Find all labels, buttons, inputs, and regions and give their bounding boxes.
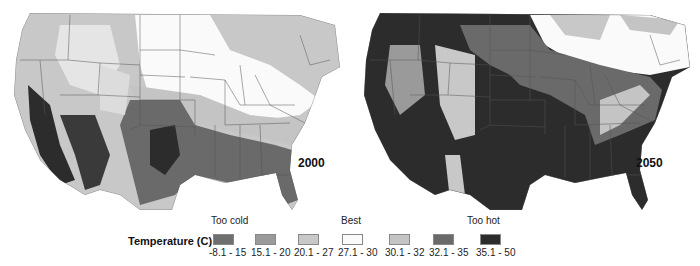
- legend-swatch: [255, 234, 276, 245]
- map-2000: 2000: [0, 5, 350, 215]
- legend-range: 30.1 - 32: [385, 247, 424, 258]
- legend-range: 32.1 - 35: [429, 247, 468, 258]
- year-label-2050: 2050: [636, 156, 663, 170]
- legend-category-too-cold: Too cold: [211, 215, 248, 226]
- us-temperature-map-2050: [350, 5, 700, 215]
- legend-range: 35.1 - 50: [476, 247, 515, 258]
- legend-swatch: [298, 234, 319, 245]
- map-2050: 2050: [350, 5, 700, 215]
- legend-range: 20.1 - 27: [294, 247, 333, 258]
- legend-swatch: [480, 234, 501, 245]
- legend-category-too-hot: Too hot: [467, 215, 500, 226]
- legend-title: Temperature (C): [128, 235, 212, 247]
- temperature-legend: Temperature (C) Too cold Best Too hot -8…: [0, 215, 700, 266]
- legend-range: 27.1 - 30: [338, 247, 377, 258]
- legend-category-best: Best: [341, 215, 361, 226]
- legend-swatch: [213, 234, 234, 245]
- us-temperature-map-2000: [0, 5, 350, 215]
- legend-range: -8.1 - 15: [209, 247, 246, 258]
- legend-swatch: [342, 234, 363, 245]
- legend-swatch: [389, 234, 410, 245]
- legend-range: 15.1 - 20: [251, 247, 290, 258]
- year-label-2000: 2000: [298, 156, 325, 170]
- legend-swatch: [433, 234, 454, 245]
